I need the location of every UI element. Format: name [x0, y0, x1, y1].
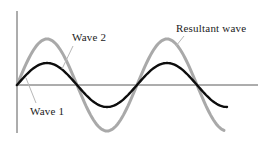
- wave2-label: Wave 2: [72, 31, 106, 43]
- resultant-wave-label: Resultant wave: [176, 22, 246, 34]
- wave1-label: Wave 1: [30, 105, 64, 117]
- resultant-leader-line: [176, 36, 184, 46]
- wave1-leader-line: [26, 78, 36, 103]
- wave-interference-diagram: Wave 2 Resultant wave Wave 1: [0, 0, 264, 144]
